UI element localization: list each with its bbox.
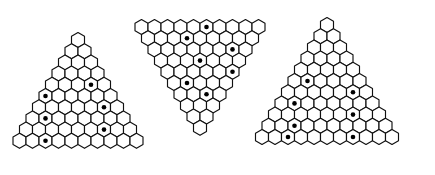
figure-canvas bbox=[0, 0, 435, 175]
hex-marker-dot bbox=[230, 47, 235, 52]
hex-marker-dot bbox=[351, 90, 356, 95]
hex-marker-dot bbox=[305, 79, 310, 84]
hex-marker-dot bbox=[204, 92, 209, 97]
hex-cell bbox=[334, 129, 347, 144]
right-triangle-group bbox=[256, 17, 399, 144]
hex-cell bbox=[104, 133, 117, 148]
hex-marker-dot bbox=[286, 135, 291, 140]
hex-cell bbox=[360, 129, 373, 144]
hex-cell bbox=[194, 120, 207, 135]
hex-marker-dot bbox=[351, 135, 356, 140]
hex-cell bbox=[52, 133, 65, 148]
hex-marker-dot bbox=[185, 81, 190, 86]
hex-marker-dot bbox=[89, 83, 94, 88]
hex-cell bbox=[269, 129, 282, 144]
hex-marker-dot bbox=[43, 116, 48, 121]
hex-marker-dot bbox=[185, 36, 190, 41]
hex-marker-dot bbox=[198, 58, 203, 63]
hex-cell bbox=[65, 133, 78, 148]
hex-cell bbox=[26, 133, 39, 148]
middle-triangle-group bbox=[135, 19, 265, 135]
hex-cell bbox=[386, 129, 399, 144]
left-triangle-group bbox=[13, 32, 143, 148]
hex-cell bbox=[78, 133, 91, 148]
hex-cell bbox=[130, 133, 143, 148]
hex-cell bbox=[13, 133, 26, 148]
hex-cell bbox=[256, 129, 269, 144]
hexagon-triangles-figure bbox=[0, 0, 435, 175]
hex-marker-dot bbox=[43, 94, 48, 99]
hex-cell bbox=[308, 129, 321, 144]
hex-cell bbox=[373, 129, 386, 144]
hex-cell bbox=[295, 129, 308, 144]
hex-marker-dot bbox=[204, 25, 209, 30]
hex-marker-dot bbox=[230, 70, 235, 75]
hex-marker-dot bbox=[102, 127, 107, 132]
hex-marker-dot bbox=[351, 112, 356, 117]
hex-marker-dot bbox=[102, 105, 107, 110]
hex-cell bbox=[91, 133, 104, 148]
hex-marker-dot bbox=[292, 124, 297, 129]
hex-marker-dot bbox=[292, 101, 297, 106]
hex-marker-dot bbox=[43, 139, 48, 144]
hex-cell bbox=[321, 129, 334, 144]
hex-cell bbox=[117, 133, 130, 148]
